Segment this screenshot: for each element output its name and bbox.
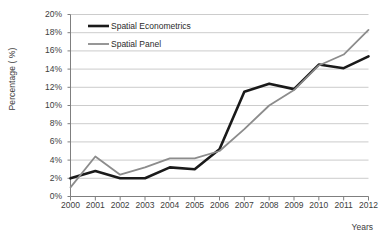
data-series [71,30,369,187]
series-line-spatial-panel [71,30,369,187]
gridlines [71,15,369,197]
axis-tickmarks [68,15,369,201]
line-chart: Percentage ( %) Years 0%2%4%6%8%10%12%14… [0,0,381,242]
legend-swatches [88,26,109,44]
plot-area [0,0,381,242]
